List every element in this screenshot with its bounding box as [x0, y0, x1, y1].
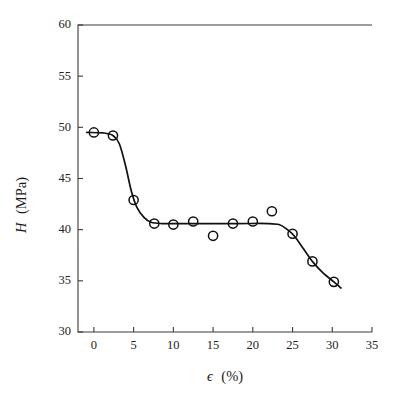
svg-text:H (MPa): H (MPa)	[13, 177, 30, 234]
y-tick-label: 60	[59, 17, 72, 31]
x-tick-label: 25	[286, 338, 299, 352]
y-tick-label: 45	[59, 171, 72, 185]
x-tick-label: 30	[326, 338, 339, 352]
y-tick-label: 35	[59, 273, 72, 287]
x-tick-label: 15	[207, 338, 220, 352]
y-axis-title: H (MPa)	[13, 177, 30, 234]
y-axis-title-symbol: H	[13, 221, 29, 234]
y-tick-label: 55	[59, 69, 72, 83]
x-tick-label: 20	[247, 338, 260, 352]
chart-figure: 05101520253035 30354045505560 H (MPa) ϵ …	[0, 0, 404, 404]
y-axis-title-unit: (MPa)	[13, 177, 30, 214]
svg-text:ϵ (%): ϵ (%)	[207, 368, 243, 385]
x-tick-label: 0	[91, 338, 97, 352]
y-tick-label: 40	[59, 222, 72, 236]
x-tick-label: 10	[167, 338, 180, 352]
y-tick-label: 50	[59, 120, 72, 134]
x-axis-title-unit: (%)	[221, 368, 243, 385]
chart-plot-svg: 05101520253035 30354045505560 H (MPa) ϵ …	[0, 0, 404, 404]
y-tick-label: 30	[59, 324, 72, 338]
x-axis-title-symbol: ϵ	[207, 368, 214, 384]
x-tick-label: 5	[130, 338, 136, 352]
chart-background	[0, 0, 404, 404]
x-tick-label: 35	[366, 338, 379, 352]
x-axis-title: ϵ (%)	[207, 368, 243, 385]
